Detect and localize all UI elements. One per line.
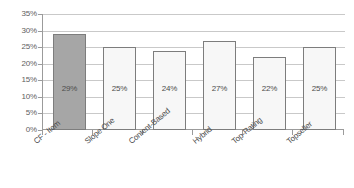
bar-value-label: 27% <box>212 85 227 93</box>
x-axis-tick-mark <box>343 130 344 135</box>
bar-value-label: 24% <box>162 85 177 93</box>
y-axis-tick-label: 5% <box>26 109 37 117</box>
y-axis-tick-label: 30% <box>22 27 37 35</box>
x-axis-tick-mark <box>92 130 93 135</box>
x-axis-tick-mark <box>142 130 143 135</box>
y-axis-tick-label: 35% <box>22 10 37 18</box>
x-axis-tick-mark <box>42 130 43 135</box>
bar-value-label: 25% <box>112 85 127 93</box>
y-axis-tick-label: 15% <box>22 76 37 84</box>
y-axis-tick-label: 0% <box>26 126 37 134</box>
y-axis: 35% 30% 25% 20% 15% 10% 5% 0% <box>0 0 42 144</box>
x-axis-tick-mark <box>242 130 243 135</box>
x-axis-tick-mark <box>192 130 193 135</box>
y-axis-tick-label: 20% <box>22 60 37 68</box>
bar-topseller[interactable]: 25% <box>303 47 336 130</box>
bar-slope-one[interactable]: 25% <box>103 47 136 130</box>
bar-chart: 35% 30% 25% 20% 15% 10% 5% 0% 29% 25% <box>0 0 354 188</box>
bar-hybrid[interactable]: 27% <box>203 41 236 131</box>
bar-content-based[interactable]: 24% <box>153 51 186 131</box>
x-axis-tick-mark <box>292 130 293 135</box>
bar-value-label: 29% <box>62 85 77 93</box>
bar-value-label: 22% <box>262 85 277 93</box>
y-axis-tick-label: 10% <box>22 93 37 101</box>
bar-cf-item[interactable]: 29% <box>53 34 86 130</box>
bars-layer: 29% 25% 24% 27% 22% 25% <box>42 14 344 130</box>
bar-top-rating[interactable]: 22% <box>253 57 286 130</box>
bar-value-label: 25% <box>312 85 327 93</box>
y-axis-tick-label: 25% <box>22 43 37 51</box>
